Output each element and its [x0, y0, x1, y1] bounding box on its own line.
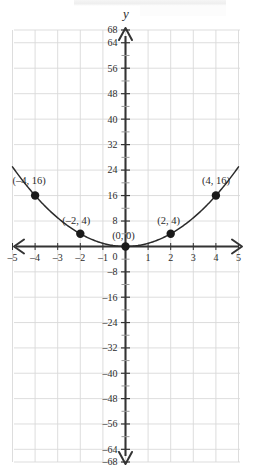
y-tick-label: –24 — [102, 317, 118, 328]
y-axis-label: y — [121, 6, 129, 21]
data-point-label: (–4, 16) — [12, 175, 46, 187]
y-tick-label: –64 — [102, 444, 118, 455]
y-tick-label: 48 — [108, 88, 118, 99]
y-tick-label: 0 — [113, 251, 118, 262]
y-tick-label: 64 — [108, 37, 118, 48]
x-tick-label: –3 — [52, 252, 63, 263]
x-tick-label: –2 — [74, 252, 85, 263]
data-point — [212, 191, 220, 199]
graph-figure: 686456484032241680–8–16–24–32–40–48–56–6… — [0, 0, 253, 470]
data-point — [76, 230, 84, 238]
data-point — [121, 242, 129, 250]
x-tick-label: 2 — [168, 252, 173, 263]
data-point-label: (–2, 4) — [62, 215, 90, 227]
x-tick-label: 4 — [213, 252, 218, 263]
y-tick-label: 68 — [108, 24, 118, 35]
y-tick-label: –8 — [107, 266, 118, 277]
y-tick-label: 16 — [108, 190, 118, 201]
point-labels: (–4, 16)(–2, 4)(0, 0)(2, 4)(4, 16) — [12, 175, 230, 242]
y-tick-label: –40 — [102, 368, 118, 379]
y-tick-label: –56 — [102, 418, 118, 429]
data-point-label: (2, 4) — [157, 215, 180, 227]
parabola-plot: 686456484032241680–8–16–24–32–40–48–56–6… — [0, 0, 253, 470]
x-tick-label: 5 — [236, 252, 241, 263]
data-point-label: (4, 16) — [202, 175, 230, 187]
y-tick-label: 32 — [108, 139, 118, 150]
y-tick-label: 24 — [108, 164, 118, 175]
x-tick-label: –1 — [97, 252, 108, 263]
x-tick-label: –4 — [29, 252, 40, 263]
data-point — [167, 230, 175, 238]
y-tick-label: –48 — [102, 393, 118, 404]
y-tick-label: –16 — [102, 292, 118, 303]
y-tick-label: –32 — [102, 342, 118, 353]
x-tick-label: 1 — [146, 252, 151, 263]
x-tick-label: 3 — [191, 252, 196, 263]
scan-artifact-block — [140, 5, 226, 16]
data-point-label: (0, 0) — [112, 230, 135, 242]
data-point — [31, 191, 39, 199]
y-tick-label: 8 — [113, 215, 118, 226]
y-tick-label: 40 — [108, 114, 118, 125]
x-tick-label: –5 — [7, 252, 18, 263]
y-tick-label: 56 — [108, 63, 118, 74]
y-tick-label: –68 — [102, 456, 118, 467]
